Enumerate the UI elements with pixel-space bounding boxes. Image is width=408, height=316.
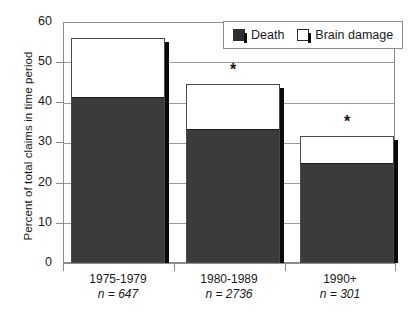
bar-shadow <box>280 88 284 263</box>
significance-asterisk-1990-plus: * <box>337 114 357 130</box>
x-category-n-text: n = 2736 <box>205 287 252 301</box>
y-tick-label: 0 <box>12 256 52 269</box>
bar-stack <box>186 84 280 263</box>
x-tick-mark <box>395 263 396 271</box>
legend-item-brain-damage: Brain damage <box>297 28 393 42</box>
y-tick-mark <box>56 62 63 63</box>
y-tick-mark <box>56 183 63 184</box>
y-tick-label: 60 <box>12 15 52 28</box>
y-tick-label: 50 <box>12 55 52 68</box>
significance-asterisk-1980-1989: * <box>223 62 243 78</box>
bar-shadow <box>394 140 398 263</box>
x-axis-line <box>63 263 395 264</box>
bar-stack <box>71 38 165 263</box>
y-tick-mark <box>56 102 63 103</box>
legend-label: Death <box>251 28 284 42</box>
x-category-1990-plus: 1990+ n = 301 <box>265 272 408 302</box>
bar-shadow <box>165 42 169 263</box>
bar-1980-1989 <box>186 84 280 263</box>
bar-segment-death <box>187 129 279 262</box>
bar-segment-death <box>72 97 164 262</box>
bar-1990-plus <box>300 136 394 263</box>
x-category-label: 1990+ <box>265 272 408 287</box>
y-tick-label: 40 <box>12 95 52 108</box>
x-category-n-text: n = 647 <box>98 287 138 301</box>
y-tick-mark <box>56 142 63 143</box>
bar-stack <box>300 136 394 263</box>
bar-segment-death <box>301 163 393 262</box>
legend-label: Brain damage <box>315 28 393 42</box>
x-category-n-text: n = 301 <box>320 287 360 301</box>
x-tick-mark <box>63 263 64 271</box>
light-square-icon <box>297 29 309 41</box>
chart-legend: Death Brain damage <box>223 21 403 49</box>
bar-1975-1979 <box>71 38 165 263</box>
y-tick-label: 20 <box>12 176 52 189</box>
x-category-n: n = 301 <box>265 287 408 302</box>
y-tick-label: 10 <box>12 216 52 229</box>
x-tick-mark <box>174 263 175 271</box>
dark-square-icon <box>233 29 245 41</box>
y-tick-label: 30 <box>12 135 52 148</box>
legend-item-death: Death <box>233 28 284 42</box>
y-tick-mark <box>56 223 63 224</box>
chart-figure: Percent of total claims in time period 0… <box>0 0 408 316</box>
x-tick-mark <box>285 263 286 271</box>
